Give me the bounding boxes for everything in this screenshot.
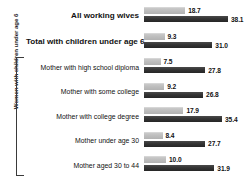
category-label: Mother aged 30 to 44	[26, 162, 144, 169]
bar-value-light: 7.5	[164, 58, 173, 65]
bar-group-dark: 31.0	[144, 42, 228, 48]
bar-chart: Women with children under age 6 All work…	[0, 0, 246, 184]
bar-value-light: 10.0	[169, 156, 181, 163]
category-label: Total with children under age 6	[26, 38, 144, 46]
bar-group-light: 7.5	[144, 59, 172, 65]
bar-light	[144, 7, 185, 14]
chart-rows: All working wives18.738.1Total with chil…	[26, 0, 246, 184]
chart-row: Total with children under age 69.331.0	[26, 29, 246, 55]
bar-pair: 10.031.9	[144, 153, 246, 178]
bar-dark	[144, 141, 205, 147]
chart-row: Mother under age 308.427.7	[26, 129, 246, 154]
bar-dark	[144, 92, 203, 98]
bar-dark	[144, 116, 222, 122]
bar-group-dark: 27.8	[144, 67, 221, 73]
bar-pair: 18.738.1	[144, 3, 246, 29]
bar-light	[144, 156, 166, 163]
bar-group-light: 17.9	[144, 108, 199, 114]
bar-group-light: 10.0	[144, 157, 181, 163]
category-label: Mother with some college	[26, 88, 144, 95]
bar-value-light: 8.4	[166, 132, 175, 139]
bar-value-dark: 27.8	[208, 67, 220, 74]
bar-light	[144, 33, 165, 40]
category-label: Mother with high school diploma	[26, 64, 144, 71]
bar-pair: 9.226.8	[144, 80, 246, 105]
bar-pair: 7.527.8	[144, 55, 246, 80]
bar-light	[144, 58, 161, 65]
bar-value-dark: 31.0	[215, 42, 227, 49]
bar-value-dark: 31.9	[217, 165, 229, 172]
bar-group-dark: 31.9	[144, 165, 230, 171]
bar-group-light: 18.7	[144, 7, 201, 13]
vertical-axis-group: Women with children under age 6	[0, 0, 26, 184]
bar-group-dark: 26.8	[144, 92, 219, 98]
bar-dark	[144, 16, 228, 22]
bar-group-dark: 27.7	[144, 141, 221, 147]
category-label: All working wives	[26, 12, 144, 20]
bar-dark	[144, 165, 214, 171]
bar-dark	[144, 67, 205, 73]
bar-value-dark: 35.4	[225, 116, 237, 123]
bar-value-dark: 38.1	[231, 16, 243, 23]
chart-row: Mother with some college9.226.8	[26, 80, 246, 105]
bar-value-light: 9.3	[168, 33, 177, 40]
chart-row: Mother with high school diploma7.527.8	[26, 55, 246, 80]
bar-value-dark: 27.7	[208, 140, 220, 147]
chart-row: Mother aged 30 to 4410.031.9	[26, 153, 246, 178]
chart-row: All working wives18.738.1	[26, 3, 246, 29]
bar-value-light: 18.7	[188, 7, 200, 14]
bar-group-dark: 35.4	[144, 116, 237, 122]
bar-pair: 9.331.0	[144, 29, 246, 55]
bar-value-light: 17.9	[186, 107, 198, 114]
bar-group-light: 9.2	[144, 83, 176, 89]
bar-pair: 8.427.7	[144, 129, 246, 154]
bar-light	[144, 107, 183, 114]
bar-pair: 17.935.4	[144, 104, 246, 129]
bar-value-light: 9.2	[167, 83, 176, 90]
chart-row: Mother with college degree17.935.4	[26, 104, 246, 129]
bar-group-light: 8.4	[144, 132, 174, 138]
category-label: Mother with college degree	[26, 113, 144, 120]
group-bracket	[16, 57, 24, 176]
bar-group-light: 9.3	[144, 33, 176, 39]
bar-group-dark: 38.1	[144, 16, 243, 22]
bar-light	[144, 132, 163, 139]
bar-light	[144, 83, 164, 90]
bar-dark	[144, 42, 212, 48]
bar-value-dark: 26.8	[206, 91, 218, 98]
category-label: Mother under age 30	[26, 137, 144, 144]
